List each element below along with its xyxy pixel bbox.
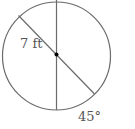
radius-label: 7 ft — [20, 36, 43, 51]
center-point — [55, 53, 59, 57]
circle-diagram: 7 ft 45° — [0, 0, 135, 129]
angle-label: 45° — [78, 109, 101, 124]
